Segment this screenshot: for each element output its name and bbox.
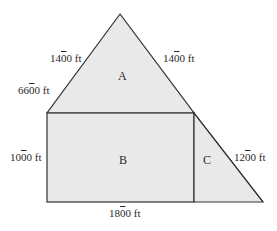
region-label-c: C: [203, 154, 211, 166]
measurement-rectangle-height: 1000 ft: [10, 152, 41, 163]
measurement-left-lower-side: 6600 ft: [18, 85, 49, 96]
figure-shapes: [0, 0, 277, 231]
measurement-right-side: 1400 ft: [163, 53, 194, 64]
measurement-rectangle-width: 1800 ft: [109, 208, 140, 219]
measurement-left-upper-side: 1400 ft: [50, 53, 81, 64]
region-label-a: A: [118, 70, 127, 82]
measurement-hypotenuse: 1200 ft: [234, 152, 265, 163]
composite-figure-diagram: A B C 1400 ft 1400 ft 6600 ft 1000 ft 12…: [0, 0, 277, 231]
region-label-b: B: [119, 154, 127, 166]
